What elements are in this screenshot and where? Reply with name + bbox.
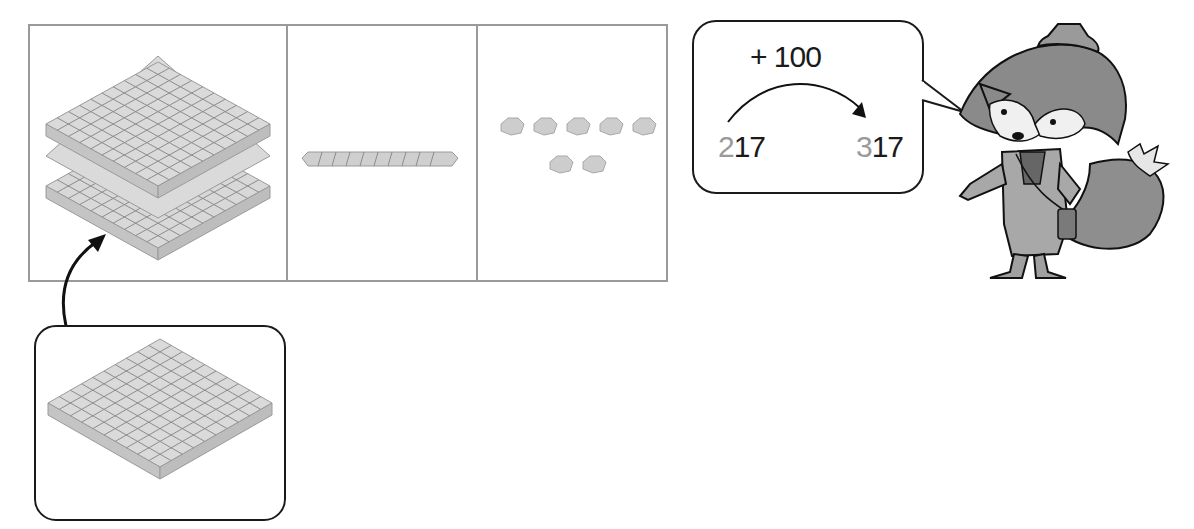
ten-rod <box>288 26 478 284</box>
unit-cube <box>600 118 623 135</box>
tens-column <box>288 26 478 280</box>
unit-cube <box>583 156 606 173</box>
ones-column <box>478 26 666 280</box>
add-arrow <box>0 0 300 340</box>
speech-bubble: + 100 217 317 <box>692 20 924 194</box>
start-number: 217 <box>718 130 765 164</box>
unit-cube <box>567 118 590 135</box>
fox-character <box>940 24 1180 286</box>
jump-arrow <box>694 22 926 196</box>
unit-cube <box>550 156 573 173</box>
unit-cube <box>534 118 557 135</box>
end-number: 317 <box>856 130 903 164</box>
added-hundred-box <box>34 325 286 521</box>
unit-cube <box>501 118 524 135</box>
hundred-flat-new <box>36 327 288 523</box>
unit-cube <box>633 118 656 135</box>
unit-cubes <box>478 26 668 284</box>
